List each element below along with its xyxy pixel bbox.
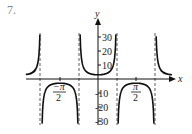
x-tick-two: 2 [56, 92, 61, 103]
x-axis-arrow-icon [169, 76, 176, 82]
x-tick-two-b: 2 [133, 92, 138, 103]
y-tick-neg20: -20 [95, 102, 108, 113]
x-axis-label: x [177, 73, 183, 84]
y-axis-arrow-icon [95, 18, 101, 25]
y-tick-neg10: -10 [95, 88, 108, 99]
secant-graph: x y 30 20 10 -10 -20 -30 −π 2 π 2 [0, 0, 192, 134]
y-axis-label: y [94, 8, 100, 19]
y-tick-neg30: -30 [95, 116, 108, 127]
y-tick-20: 20 [102, 46, 112, 57]
y-tick-10: 10 [102, 60, 112, 71]
y-tick-30: 30 [102, 32, 112, 43]
